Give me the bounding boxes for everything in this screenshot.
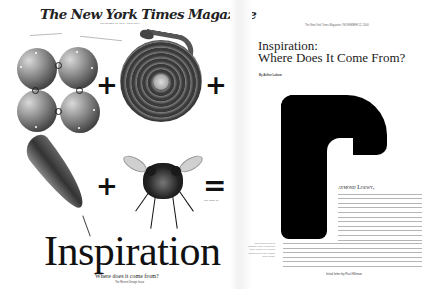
decorative-scratch <box>30 33 62 36</box>
article-title: Inspiration: Where Does It Come From? <box>258 40 405 64</box>
cover-title: Inspiration <box>44 230 220 272</box>
article-body-intro: aymond Loewy, <box>338 185 422 244</box>
illustration-credit: Initial letter by Paul Elliman <box>326 272 362 276</box>
magazine-cover-page: The New York Times Magazine NOVEMBER 12,… <box>0 0 222 289</box>
article-byline: By Arthur Lubow <box>259 73 282 77</box>
article-text-lines <box>338 194 422 241</box>
running-head: The New York Times Magazine / NOVEMBER 1… <box>305 24 369 27</box>
plus-sign: + <box>96 173 118 199</box>
plus-sign: + <box>96 72 118 98</box>
sidebar-caption: Raymond Loewy's designs, from a sculpted… <box>245 242 275 258</box>
decorative-scratch <box>80 36 122 41</box>
cover-subtitle: Where does it come from? <box>95 273 159 279</box>
article-lede: aymond Loewy, <box>338 184 374 190</box>
masthead: The New York Times Magazine <box>40 6 190 22</box>
see-page-note: See Page 77 <box>204 199 218 202</box>
article-title-line2: Where Does It Come From? <box>258 52 405 64</box>
cover-byline: The Recent Design Issue <box>115 281 144 284</box>
article-body-continued <box>283 243 422 271</box>
cover-date-line: NOVEMBER 12, 2000 / SECTION 6 <box>95 22 145 25</box>
